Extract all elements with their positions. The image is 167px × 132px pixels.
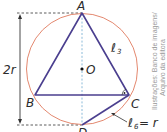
label-l3: ℓ [110,41,116,55]
credit-line-1: Ilustrações: Banco de imagens/ [151,12,159,110]
geometry-figure: 2r O A B C D ℓ 3 ℓ 6 = r Ilustrações: Ba… [0,0,167,132]
label-d: D [78,126,87,132]
label-a: A [76,0,85,13]
label-o: O [86,63,95,77]
arrow-head-down-icon [18,119,22,124]
hexagon-side-cd [82,95,129,125]
diameter-label: 2r [3,63,17,77]
arrow-head-up-icon [18,14,22,19]
angle-dot [124,92,126,94]
center-point [80,67,83,70]
label-b: B [26,96,34,110]
label-l6: ℓ [127,116,133,130]
credit-line-2: Arquivo da editora [159,39,167,96]
label-l3-sub: 3 [117,48,121,56]
label-c: C [131,97,140,111]
l6-pointer [113,114,127,122]
label-l6-eq: = r [139,116,159,130]
